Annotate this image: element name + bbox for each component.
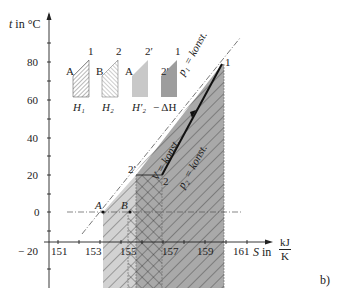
y-axis-title: t in °C [9,18,40,30]
legend-dh-label: − ΔH [153,102,176,113]
legend-dh-from: 2′ [161,66,169,77]
x-tick-157: 157 [162,246,179,257]
y-axis-symbol: t [9,17,12,31]
legend-swatch-h2 [102,60,118,97]
point-label-1: 1 [225,57,231,68]
y-axis-unit: in °C [15,17,40,31]
x-axis-unit-prefix: in [262,245,271,259]
x-tick-161: 161 [233,246,250,257]
legend-swatch-h2prime [132,60,148,97]
point-label-2: 2 [163,176,169,187]
legend-h2prime-to: 2′ [145,46,153,57]
point-label-2prime: 2′ [128,164,136,175]
legend-h2-from: B [96,66,103,77]
y-tick-60: 60 [27,95,38,106]
x-axis-title: S in [253,246,271,258]
x-unit-numerator: kJ [279,237,291,250]
legend-swatch-h1 [73,60,89,97]
y-tick-20: 20 [27,170,38,181]
x-tick-151: 151 [51,246,68,257]
point-label-b: B [121,200,128,211]
x-axis-symbol: S [253,245,259,259]
x-tick-159: 159 [197,246,214,257]
legend-h1-to: 1 [88,46,94,57]
x-tick-153: 153 [85,246,102,257]
point-label-a: A [95,200,102,211]
x-unit-denominator: K [279,250,291,262]
legend-h1-label: H₁ [73,102,85,113]
legend-dh-to: 1 [175,46,181,57]
legend-h2prime-from: A [125,66,133,77]
x-axis-unit-fraction: kJ K [279,237,291,262]
panel-label: b) [320,274,330,286]
y-tick-0: 0 [34,207,40,218]
x-tick-155: 155 [120,246,137,257]
y-tick-minus20: − 20 [18,246,38,257]
y-tick-40: 40 [27,133,38,144]
y-tick-80: 80 [27,57,38,68]
legend-h1-from: A [66,66,74,77]
legend-h2prime-label: H′₂ [132,102,146,113]
legend-h2-label: H₂ [102,102,114,113]
legend-h2-to: 2 [116,46,122,57]
